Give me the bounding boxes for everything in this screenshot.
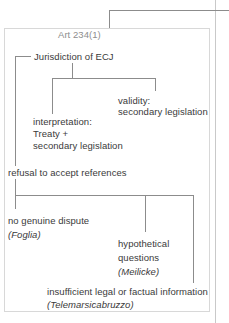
jurisdiction-split-bar bbox=[52, 78, 155, 79]
root-node-label: Jurisdiction of ECJ bbox=[34, 51, 114, 62]
case-label-hypothetical-line1: hypothetical bbox=[118, 238, 169, 249]
root-left-spur bbox=[15, 56, 31, 57]
left-rail bbox=[15, 56, 16, 166]
interpretation-label-line3: secondary legislation bbox=[33, 140, 123, 151]
root-stem bbox=[72, 63, 73, 78]
interpretation-label-line1: interpretation: bbox=[33, 116, 92, 127]
validity-label-line2: secondary legislation bbox=[118, 106, 208, 117]
interpretation-stem bbox=[52, 78, 53, 114]
case-name-telemarsicabruzzo: (Telemarsicabruzzo) bbox=[47, 299, 134, 310]
refusal-heading: refusal to accept references bbox=[8, 167, 127, 178]
validity-label-line1: validity: bbox=[118, 95, 150, 106]
case-label-no-genuine-dispute: no genuine dispute bbox=[8, 215, 89, 226]
top-connector-horizontal bbox=[109, 10, 229, 11]
case-stem-meilicke bbox=[145, 195, 146, 232]
refusal-split-bar bbox=[15, 195, 193, 196]
page-margin-rule bbox=[215, 0, 216, 323]
refusal-stem bbox=[15, 179, 16, 195]
interpretation-label-line2: Treaty + bbox=[33, 128, 68, 139]
validity-stem bbox=[155, 78, 156, 91]
case-label-insufficient-information: insufficient legal or factual informatio… bbox=[47, 286, 208, 297]
case-name-foglia: (Foglia) bbox=[8, 229, 41, 240]
case-name-meilicke: (Meilicke) bbox=[118, 266, 159, 277]
case-label-hypothetical-line2: questions bbox=[118, 252, 159, 263]
case-stem-foglia bbox=[15, 195, 16, 209]
top-connector-vertical bbox=[109, 10, 110, 29]
diagram-title: Art 234(1) bbox=[58, 29, 101, 40]
diagram-canvas: Art 234(1) Jurisdiction of ECJ validity:… bbox=[0, 0, 229, 323]
case-stem-telemarsicabruzzo bbox=[193, 195, 194, 283]
